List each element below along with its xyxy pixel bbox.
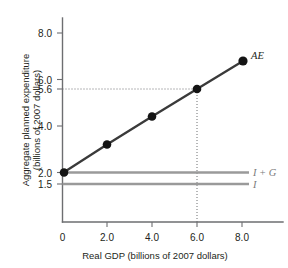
x-axis-title: Real GDP (billions of 2007 dollars) (82, 250, 228, 261)
y-tick-marks (57, 33, 63, 184)
data-point-2 (148, 112, 157, 121)
data-point-4 (238, 56, 247, 65)
x-tick-marks (107, 222, 242, 227)
y-tick-label-8: 8.0 (38, 28, 52, 39)
series-label-i: I (252, 179, 257, 190)
x-tick-label-8: 8.0 (235, 232, 249, 243)
aggregate-expenditure-chart: 8.0 6.0 5.6 4.0 2.0 1.5 0 2.0 4.0 6.0 8.… (0, 0, 288, 268)
chart-canvas: 8.0 6.0 5.6 4.0 2.0 1.5 0 2.0 4.0 6.0 8.… (0, 0, 288, 268)
x-tick-labels: 0 2.0 4.0 6.0 8.0 (60, 232, 250, 243)
y-axis-title-line2: (billions of 2007 dollars) (31, 70, 42, 170)
data-point-1 (103, 140, 112, 149)
data-point-0 (60, 168, 69, 177)
series-label-i-plus-g: I + G (252, 167, 277, 178)
data-point-3 (193, 85, 202, 94)
y-axis-title-line1: Aggregate planned expenditure (20, 54, 31, 187)
x-tick-label-0: 0 (60, 232, 66, 243)
x-tick-label-6: 6.0 (190, 232, 204, 243)
series-label-ae: AE (250, 50, 264, 61)
equilibrium-guide-lines (63, 89, 198, 222)
axes-group (63, 18, 284, 222)
x-tick-label-2: 2.0 (100, 232, 114, 243)
x-tick-label-4: 4.0 (145, 232, 159, 243)
y-tick-label-1-5: 1.5 (38, 179, 52, 190)
y-axis-title: Aggregate planned expenditure (billions … (20, 54, 42, 187)
